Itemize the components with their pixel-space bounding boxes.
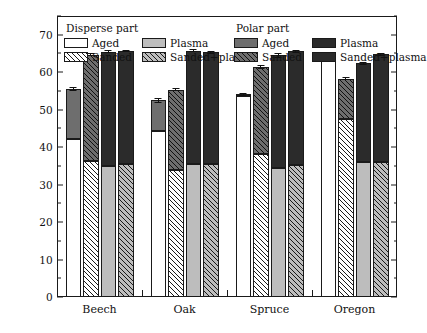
segment-disperse (356, 162, 372, 297)
legend-item-plasma[interactable]: Plasma (312, 38, 404, 48)
segment-polar (288, 51, 304, 165)
error-bar (257, 65, 264, 69)
legend-item-label: Sanded (92, 52, 132, 62)
segment-disperse (338, 119, 354, 297)
y-tick-label: 0 (46, 291, 53, 303)
segment-disperse (168, 170, 184, 297)
y-tick-minor-right (394, 240, 398, 241)
segment-polar (151, 100, 167, 131)
segment-polar (271, 55, 287, 167)
y-tick-label: 20 (39, 216, 53, 228)
legend-item-sanded[interactable]: Sanded (64, 52, 142, 62)
error-bar-cap-top (342, 77, 349, 78)
error-bar-cap-top (257, 65, 264, 66)
segment-polar (186, 51, 202, 165)
segment-disperse (203, 164, 219, 297)
y-tick-major (57, 147, 63, 148)
legend-item-label: Plasma (170, 38, 208, 48)
y-tick-minor (57, 165, 61, 166)
y-tick-major-right (391, 297, 397, 298)
bar-spruce-plasma (271, 55, 287, 297)
segment-disperse (236, 96, 252, 297)
bar-oak-aged (151, 100, 167, 297)
x-axis-separator (312, 290, 313, 297)
y-tick-major (57, 184, 63, 185)
y-tick-minor (57, 53, 61, 54)
error-bar-cap-top (155, 98, 162, 99)
legend-item-label: Aged (262, 38, 289, 48)
error-bar-cap-bottom (155, 102, 162, 103)
x-axis-group-label: Spruce (250, 303, 290, 316)
error-bar-cap-bottom (257, 68, 264, 69)
y-tick-minor (57, 128, 61, 129)
legend-swatch-icon (142, 38, 166, 48)
legend-group-polar-part: Polar partAgedPlasmaSandedSanded+plasma (234, 22, 404, 65)
segment-disperse (66, 139, 82, 297)
y-tick-major-right (391, 184, 397, 185)
legend-swatch-icon (64, 38, 88, 48)
error-bar-cap-bottom (342, 79, 349, 80)
y-tick-major (57, 297, 63, 298)
bar-spruce-sanded-plasma (288, 51, 304, 297)
bar-oak-plasma (186, 51, 202, 297)
legend-item-aged[interactable]: Aged (64, 38, 142, 48)
x-axis-group-label: Beech (82, 303, 116, 316)
y-tick-minor (57, 203, 61, 204)
bar-spruce-sanded (253, 67, 269, 297)
legend-item-aged[interactable]: Aged (234, 38, 312, 48)
y-tick-minor (57, 16, 61, 17)
y-tick-major-right (391, 259, 397, 260)
segment-polar (253, 67, 269, 154)
bar-beech-plasma (101, 52, 117, 297)
legend-item-label: Aged (92, 38, 119, 48)
segment-disperse (373, 162, 389, 297)
x-axis-separator (142, 290, 143, 297)
legend-group-disperse-part: Disperse partAgedPlasmaSandedSanded+plas… (64, 22, 234, 65)
legend-item-plasma[interactable]: Plasma (142, 38, 234, 48)
y-tick-minor-right (394, 16, 398, 17)
error-bar-cap-top (172, 88, 179, 89)
segment-polar (338, 79, 354, 119)
legend-group-title: Polar part (236, 22, 404, 34)
legend-row: SandedSanded+plasma (234, 51, 404, 64)
legend-row: SandedSanded+plasma (64, 51, 234, 64)
bar-beech-sanded-plasma (118, 51, 134, 297)
segment-disperse (101, 166, 117, 297)
error-bar (172, 88, 179, 91)
y-tick-major (57, 72, 63, 73)
legend-swatch-icon (234, 52, 258, 62)
bar-oregon-sanded-plasma (373, 54, 389, 297)
y-tick-minor (57, 278, 61, 279)
y-tick-label: 30 (39, 179, 53, 191)
y-tick-minor-right (394, 203, 398, 204)
legend-item-sanded[interactable]: Sanded (234, 52, 312, 62)
segment-disperse (288, 165, 304, 297)
bar-beech-aged (66, 89, 82, 297)
y-tick-label: 70 (39, 29, 53, 41)
segment-polar (83, 55, 99, 162)
error-bar (70, 87, 77, 91)
bar-oregon-plasma (356, 63, 372, 297)
x-axis-group-label: Oak (173, 303, 195, 316)
y-tick-minor-right (394, 278, 398, 279)
y-tick-major (57, 222, 63, 223)
bar-oak-sanded (168, 90, 184, 297)
y-tick-label: 40 (39, 141, 53, 153)
y-tick-minor (57, 90, 61, 91)
legend-swatch-icon (312, 38, 336, 48)
error-bar-cap-bottom (70, 90, 77, 91)
bar-beech-sanded (83, 55, 99, 297)
y-axis-label-wrapper: Surface energy (mN/m⁻) (0, 0, 20, 333)
legend-item-sanded-plasma[interactable]: Sanded+plasma (312, 52, 404, 62)
legend-item-sanded-plasma[interactable]: Sanded+plasma (142, 52, 234, 62)
segment-polar (373, 54, 389, 162)
y-tick-label: 50 (39, 104, 53, 116)
legend-swatch-icon (312, 52, 336, 62)
bar-oregon-sanded (338, 79, 354, 297)
error-bar-cap-top (240, 93, 247, 94)
segment-polar (168, 90, 184, 170)
legend-item-label: Sanded (262, 52, 302, 62)
y-tick-minor-right (394, 128, 398, 129)
bar-oregon-aged (321, 58, 337, 297)
legend-group-title: Disperse part (66, 22, 234, 34)
